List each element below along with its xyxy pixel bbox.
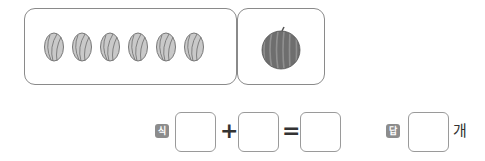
sum-input[interactable] bbox=[300, 112, 341, 152]
small-watermelon-icon bbox=[155, 31, 177, 63]
equals-sign: = bbox=[282, 120, 300, 142]
small-watermelon-icon bbox=[99, 31, 121, 63]
small-watermelon-icon bbox=[71, 31, 93, 63]
answer-unit: 개 bbox=[453, 123, 467, 139]
equation-label-badge: 식 bbox=[155, 124, 169, 138]
small-watermelon-icon bbox=[43, 31, 65, 63]
addend-2-input[interactable] bbox=[238, 112, 279, 152]
small-watermelon-icon bbox=[127, 31, 149, 63]
large-watermelon-icon bbox=[260, 25, 302, 71]
small-watermelons-group bbox=[24, 8, 237, 85]
small-watermelons-row bbox=[43, 31, 205, 63]
small-watermelon-icon bbox=[183, 31, 205, 63]
large-watermelon-group bbox=[237, 8, 325, 85]
addend-1-input[interactable] bbox=[175, 112, 216, 152]
plus-sign: + bbox=[220, 120, 238, 142]
answer-input[interactable] bbox=[408, 112, 449, 152]
answer-label-badge: 답 bbox=[386, 124, 400, 138]
